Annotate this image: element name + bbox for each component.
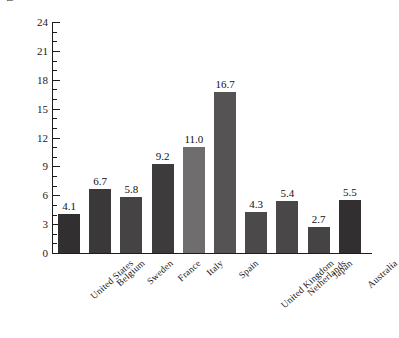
bar [183,147,205,253]
x-category-label: Spain [237,258,261,281]
bar [152,164,174,253]
y-tick-label: 15 [8,104,48,114]
bar-value-label: 9.2 [143,151,183,162]
y-tick-label: 12 [8,133,48,143]
y-tick-label: 9 [8,161,48,171]
x-axis-line [52,253,372,254]
bar [89,189,111,253]
x-category-label: France [176,258,203,284]
bar-value-label: 5.8 [111,184,151,195]
y-tick-label: 3 [8,219,48,229]
bar [120,197,142,253]
x-category-label: United Kingdom [279,258,335,310]
x-category-label: Japan [330,258,354,281]
y-tick-label: 0 [8,248,48,258]
bar-value-label: 16.7 [205,79,245,90]
y-tick-label: 24 [8,17,48,27]
x-category-label: Australia [365,258,399,290]
x-category-label: Sweden [145,258,175,286]
y-tick-label: 6 [8,190,48,200]
bar [339,200,361,253]
bar [214,92,236,253]
bar-value-label: 5.4 [267,188,307,199]
bar-value-label: 4.3 [236,199,276,210]
bar [58,214,80,253]
bar [245,212,267,253]
x-category-label: Italy [205,258,225,278]
bar [308,227,330,253]
bar-value-label: 4.1 [49,201,89,212]
bar-value-label: 5.5 [330,187,370,198]
bar-value-label: 11.0 [174,134,214,145]
bar-value-label: 2.7 [299,214,339,225]
plot-area: 4.16.75.89.211.016.74.35.42.75.5 [52,22,372,253]
bar [276,201,298,253]
y-tick-label: 18 [8,75,48,85]
y-tick-major [53,253,60,254]
y-tick-label: 21 [8,46,48,56]
